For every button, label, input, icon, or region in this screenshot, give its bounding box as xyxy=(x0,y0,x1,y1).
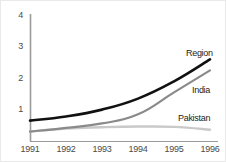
x-tick-label-1995: 1995 xyxy=(157,144,191,154)
x-tick-label-1996: 1996 xyxy=(193,144,226,154)
series-label-region: Region xyxy=(186,48,213,58)
x-tick-label-1992: 1992 xyxy=(49,144,83,154)
y-tick-label-1: 1 xyxy=(9,104,23,114)
x-tick-label-1991: 1991 xyxy=(13,144,47,154)
x-tick-label-1994: 1994 xyxy=(121,144,155,154)
plot-area xyxy=(0,0,226,162)
series-line-region xyxy=(30,59,210,120)
y-tick-label-4: 4 xyxy=(9,10,23,20)
line-chart-figure: 1234 199119921993199419951996 RegionIndi… xyxy=(0,0,226,162)
y-tick-label-3: 3 xyxy=(9,41,23,51)
series-label-india: India xyxy=(192,85,210,95)
x-tick-label-1993: 1993 xyxy=(85,144,119,154)
series-label-pakistan: Pakistan xyxy=(178,113,210,123)
y-tick-label-2: 2 xyxy=(9,73,23,83)
